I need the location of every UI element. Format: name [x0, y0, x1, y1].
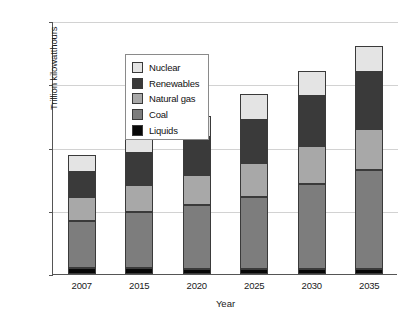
bar-segment-2015-natural-gas[interactable]: [125, 185, 153, 212]
legend-item-natural-gas[interactable]: Natural gas: [132, 91, 208, 107]
legend-item-nuclear[interactable]: Nuclear: [132, 60, 208, 76]
bar-segment-2020-natural-gas[interactable]: [183, 175, 211, 205]
bar-segment-2007-renewables[interactable]: [68, 172, 96, 197]
bar-segment-2015-liquids[interactable]: [125, 268, 153, 274]
y-tick-mark-0: [49, 275, 53, 276]
gridline-20: [53, 149, 398, 150]
legend-swatch-icon: [132, 109, 143, 120]
x-tick-label-2025: 2025: [224, 280, 284, 291]
y-tick-mark-10: [49, 212, 53, 213]
bar-2025[interactable]: [240, 21, 268, 274]
legend-label: Renewables: [149, 78, 199, 89]
legend-swatch-icon: [132, 125, 143, 136]
bar-segment-2020-coal[interactable]: [183, 205, 211, 269]
bar-segment-2015-coal[interactable]: [125, 212, 153, 268]
x-tick-label-2030: 2030: [282, 280, 342, 291]
bar-segment-2035-natural-gas[interactable]: [355, 129, 383, 170]
bar-segment-2035-nuclear[interactable]: [355, 46, 383, 73]
bar-2030[interactable]: [298, 21, 326, 274]
bar-segment-2030-natural-gas[interactable]: [298, 146, 326, 183]
gridline-30: [53, 85, 398, 86]
bar-segment-2007-nuclear[interactable]: [68, 155, 96, 172]
bar-segment-2007-natural-gas[interactable]: [68, 197, 96, 221]
bar-2007[interactable]: [68, 21, 96, 274]
plot-area: 010203040 200720152020202520302035 Year …: [52, 22, 397, 275]
legend-label: Liquids: [149, 125, 178, 136]
bar-segment-2035-liquids[interactable]: [355, 269, 383, 274]
bar-segment-2025-nuclear[interactable]: [240, 94, 268, 121]
bar-segment-2025-liquids[interactable]: [240, 269, 268, 274]
bar-segment-2020-liquids[interactable]: [183, 269, 211, 274]
bar-segment-2007-coal[interactable]: [68, 221, 96, 268]
legend-item-liquids[interactable]: Liquids: [132, 122, 208, 138]
bar-segment-2020-renewables[interactable]: [183, 137, 211, 175]
y-tick-mark-40: [49, 22, 53, 23]
y-axis-title: Trillion kilowatthours: [48, 26, 59, 110]
legend-label: Natural gas: [149, 93, 195, 104]
bar-segment-2035-coal[interactable]: [355, 170, 383, 269]
x-tick-label-2020: 2020: [167, 280, 227, 291]
bar-segment-2007-liquids[interactable]: [68, 268, 96, 274]
bar-segment-2035-renewables[interactable]: [355, 72, 383, 128]
x-tick-label-2015: 2015: [109, 280, 169, 291]
legend-swatch-icon: [132, 93, 143, 104]
bar-segment-2030-nuclear[interactable]: [298, 71, 326, 96]
legend-label: Nuclear: [149, 62, 180, 73]
bar-segment-2030-liquids[interactable]: [298, 269, 326, 274]
chart-container: 010203040 200720152020202520302035 Year …: [0, 0, 415, 318]
bar-segment-2025-renewables[interactable]: [240, 120, 268, 163]
legend-swatch-icon: [132, 78, 143, 89]
y-tick-mark-20: [49, 149, 53, 150]
bar-segment-2030-renewables[interactable]: [298, 96, 326, 146]
bar-segment-2025-coal[interactable]: [240, 197, 268, 268]
legend-item-coal[interactable]: Coal: [132, 107, 208, 123]
gridline-10: [53, 212, 398, 213]
legend-label: Coal: [149, 109, 168, 120]
bar-segment-2025-natural-gas[interactable]: [240, 163, 268, 197]
legend-swatch-icon: [132, 62, 143, 73]
bar-segment-2030-coal[interactable]: [298, 184, 326, 269]
x-tick-label-2007: 2007: [52, 280, 112, 291]
bar-segment-2015-renewables[interactable]: [125, 153, 153, 185]
gridline-40: [53, 22, 398, 23]
x-tick-label-2035: 2035: [339, 280, 399, 291]
legend: NuclearRenewablesNatural gasCoalLiquids: [125, 54, 209, 140]
x-axis-title: Year: [53, 298, 398, 309]
bar-2035[interactable]: [355, 21, 383, 274]
legend-item-renewables[interactable]: Renewables: [132, 76, 208, 92]
